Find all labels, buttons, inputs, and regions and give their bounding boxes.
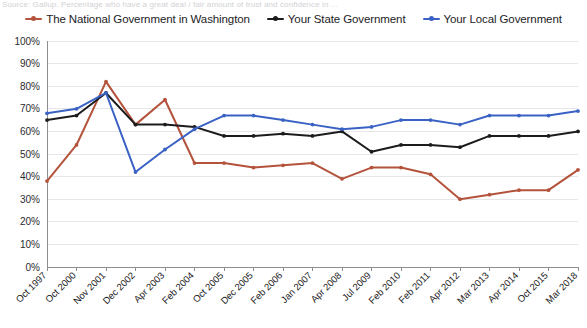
data-point — [163, 98, 167, 102]
data-point — [252, 134, 256, 138]
plot-area: 100%90%80%70%60%50%40%30%20%10%0% Oct 19… — [0, 29, 587, 328]
legend-label: Your State Government — [288, 13, 406, 25]
line-chart: 100%90%80%70%60%50%40%30%20%10%0% Oct 19… — [0, 29, 587, 328]
data-point — [75, 107, 79, 111]
data-point — [340, 127, 344, 131]
data-point — [547, 114, 551, 118]
data-point — [370, 125, 374, 129]
data-point — [429, 143, 433, 147]
x-axis-labels: Oct 1997Oct 2000Nov 2001Dec 2002Apr 2003… — [13, 270, 579, 307]
data-point — [340, 177, 344, 181]
data-point — [45, 111, 49, 115]
x-axis-tick-label: Jan 2007 — [278, 270, 313, 305]
x-axis-tick-label: Feb 2004 — [160, 270, 196, 306]
axes — [47, 41, 578, 271]
legend-item-national[interactable]: The National Government in Washington — [25, 13, 250, 25]
data-point — [517, 114, 521, 118]
data-point — [45, 179, 49, 183]
x-axis-tick-label: Apr 2014 — [485, 270, 520, 305]
data-point — [163, 123, 167, 127]
x-axis-tick-label: Feb 2011 — [396, 270, 432, 306]
y-axis-tick-label: 40% — [20, 171, 40, 182]
data-point — [311, 134, 315, 138]
data-point — [252, 114, 256, 118]
x-axis-tick-label: Feb 2010 — [366, 270, 402, 306]
data-point — [134, 123, 138, 127]
data-point — [281, 118, 285, 122]
series-line — [47, 82, 578, 200]
data-point — [576, 109, 580, 113]
y-axis-tick-label: 70% — [20, 103, 40, 114]
data-point — [222, 134, 226, 138]
y-axis-tick-label: 10% — [20, 239, 40, 250]
data-point — [311, 161, 315, 165]
data-point — [370, 150, 374, 154]
data-point — [222, 161, 226, 165]
legend-label: Your Local Government — [444, 13, 562, 25]
gridlines — [47, 41, 578, 267]
x-axis-tick-label: Dec 2002 — [100, 270, 137, 307]
data-point — [576, 130, 580, 134]
data-point — [134, 170, 138, 174]
y-axis-tick-label: 0% — [26, 262, 41, 273]
x-axis-tick-label: Apr 2008 — [308, 270, 343, 305]
data-point — [252, 166, 256, 170]
data-point — [399, 118, 403, 122]
y-axis-tick-label: 20% — [20, 216, 40, 227]
data-point — [458, 145, 462, 149]
legend-swatch-icon — [25, 18, 42, 21]
data-point — [104, 80, 108, 84]
legend-item-state[interactable]: Your State Government — [267, 13, 406, 25]
y-axis-tick-label: 30% — [20, 194, 40, 205]
data-point — [399, 143, 403, 147]
data-point — [222, 114, 226, 118]
data-point — [281, 132, 285, 136]
data-point — [429, 118, 433, 122]
data-point — [547, 134, 551, 138]
data-point — [399, 166, 403, 170]
legend-item-local[interactable]: Your Local Government — [423, 13, 562, 25]
data-point — [458, 197, 462, 201]
data-point — [104, 91, 108, 95]
data-point — [429, 172, 433, 176]
y-axis-tick-label: 90% — [20, 58, 40, 69]
chart-legend: The National Government in WashingtonYou… — [0, 9, 587, 29]
x-axis-tick-label: Feb 2006 — [248, 270, 284, 306]
data-point — [488, 134, 492, 138]
x-axis-tick-label: Mar 2018 — [543, 270, 579, 306]
x-axis-tick-label: Dec 2005 — [218, 270, 255, 307]
y-axis-tick-label: 100% — [14, 36, 40, 47]
data-point — [458, 123, 462, 127]
data-point — [311, 123, 315, 127]
data-point — [193, 161, 197, 165]
legend-swatch-icon — [423, 18, 440, 21]
legend-label: The National Government in Washington — [46, 13, 250, 25]
series-group — [45, 80, 580, 201]
data-point — [517, 188, 521, 192]
x-axis-tick-label: Oct 1997 — [13, 270, 48, 305]
legend-swatch-icon — [267, 18, 284, 21]
y-axis-tick-label: 80% — [20, 81, 40, 92]
data-point — [547, 188, 551, 192]
y-axis-tick-label: 50% — [20, 149, 40, 160]
y-axis-labels: 100%90%80%70%60%50%40%30%20%10%0% — [14, 36, 40, 273]
chart-page: Source: Gallup. Percentage who have a gr… — [0, 0, 587, 328]
y-axis-tick-label: 60% — [20, 126, 40, 137]
data-point — [370, 166, 374, 170]
data-point — [193, 127, 197, 131]
data-point — [281, 163, 285, 167]
data-point — [163, 148, 167, 152]
data-point — [75, 114, 79, 118]
series-line — [47, 93, 578, 172]
data-point — [576, 168, 580, 172]
series-1 — [45, 80, 580, 201]
data-point — [488, 114, 492, 118]
data-point — [517, 134, 521, 138]
series-line — [47, 93, 578, 152]
data-point — [75, 143, 79, 147]
x-axis-tick-label: Mar 2013 — [455, 270, 491, 306]
source-note: Source: Gallup. Percentage who have a gr… — [0, 0, 587, 9]
data-point — [488, 193, 492, 197]
data-point — [45, 118, 49, 122]
